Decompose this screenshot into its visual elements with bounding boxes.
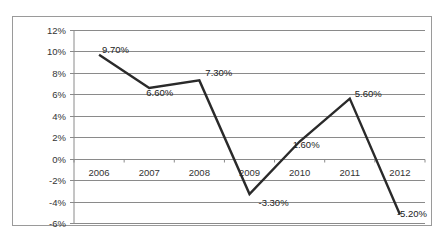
gridlines <box>70 31 425 224</box>
y-tick-label: -4% <box>49 197 66 208</box>
data-label: 6.60% <box>146 87 173 98</box>
data-labels: 9.70%6.60%7.30%-3.30%1.60%5.60%-5.20% <box>102 44 428 220</box>
data-series <box>99 55 400 215</box>
data-label: -3.30% <box>259 197 290 208</box>
data-label: -5.20% <box>397 208 428 219</box>
x-tick-label: 2006 <box>89 167 110 178</box>
x-tick-label: 2010 <box>289 167 310 178</box>
x-tick-label: 2011 <box>340 167 360 178</box>
data-label: 7.30% <box>205 67 232 78</box>
y-tick-label: 10% <box>47 46 67 57</box>
y-tick-label: 6% <box>52 89 66 100</box>
y-tick-label: 2% <box>52 132 66 143</box>
x-axis: 2006200720082009201020112012 <box>74 160 425 178</box>
y-tick-label: 8% <box>52 68 66 79</box>
y-tick-label: 12% <box>47 25 67 36</box>
x-tick-label: 2012 <box>389 167 410 178</box>
data-label: 9.70% <box>102 44 129 55</box>
data-label: 5.60% <box>355 88 382 99</box>
series-line <box>99 55 400 215</box>
x-tick-label: 2008 <box>189 167 210 178</box>
data-label: 1.60% <box>293 139 320 150</box>
x-tick-label: 2007 <box>139 167 160 178</box>
y-tick-label: 0% <box>52 154 66 165</box>
y-tick-label: -6% <box>49 218 66 229</box>
y-tick-label: 4% <box>52 111 66 122</box>
y-axis: 12%10%8%6%4%2%0%-2%-4%-6% <box>47 25 74 229</box>
line-chart: 12%10%8%6%4%2%0%-2%-4%-6% 20062007200820… <box>0 0 444 242</box>
y-tick-label: -2% <box>49 175 66 186</box>
